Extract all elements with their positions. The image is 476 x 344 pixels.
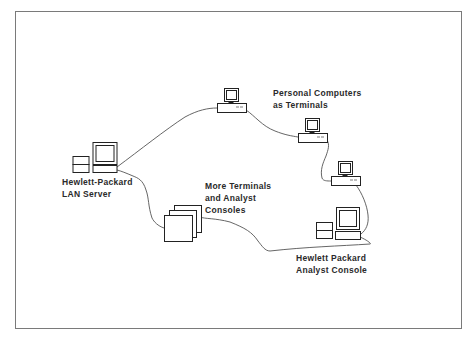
stacked-terminals-icon (165, 206, 202, 242)
analyst-console-icon (317, 208, 361, 240)
pcs-label-line1: Personal Computers (273, 87, 362, 99)
lan-server-label-line2: LAN Server (62, 188, 133, 200)
pc2-icon (299, 119, 328, 143)
more-terminals-label-line1: More Terminals (205, 180, 271, 192)
lan-server-label: Hewlett-Packard LAN Server (62, 176, 133, 200)
analyst-console-label: Hewlett Packard Analyst Console (296, 252, 367, 276)
more-terminals-label-line3: Consoles (205, 204, 271, 216)
more-terminals-label: More Terminals and Analyst Consoles (205, 180, 271, 216)
analyst-console-label-line2: Analyst Console (296, 264, 367, 276)
network-diagram (0, 0, 476, 344)
pcs-label: Personal Computers as Terminals (273, 87, 362, 111)
analyst-console-label-line1: Hewlett Packard (296, 252, 367, 264)
pcs-label-line2: as Terminals (273, 99, 362, 111)
pc3-icon (332, 162, 361, 186)
pc1-icon (218, 89, 247, 113)
link-pc1-pc2 (246, 110, 298, 137)
link-pc2-pc3 (321, 140, 331, 181)
more-terminals-label-line2: and Analyst (205, 192, 271, 204)
lan-server-label-line1: Hewlett-Packard (62, 176, 133, 188)
lan-server-icon (73, 143, 117, 173)
link-server-pc1 (117, 108, 217, 167)
